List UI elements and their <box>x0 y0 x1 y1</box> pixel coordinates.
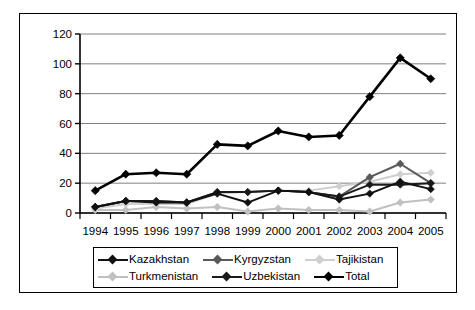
y-tick-label: 60 <box>59 118 72 130</box>
x-tick-label: 2000 <box>265 225 291 237</box>
data-point <box>274 127 282 135</box>
x-tick-label: 1994 <box>82 225 108 237</box>
y-tick-label: 40 <box>59 147 72 159</box>
legend-marker-icon <box>212 271 242 282</box>
data-point <box>305 133 313 141</box>
y-tick-label: 20 <box>59 177 72 189</box>
x-tick-label: 1996 <box>143 225 169 237</box>
y-tick-label: 120 <box>53 28 72 40</box>
data-point <box>397 199 404 206</box>
data-point <box>214 203 221 210</box>
legend-marker-icon <box>314 271 344 282</box>
legend-marker-icon <box>305 254 335 265</box>
x-axis: 1994199519961997199819992000200120022003… <box>80 213 446 237</box>
legend-label: Turkmenistan <box>129 271 198 283</box>
legend-marker-icon <box>98 271 128 282</box>
legend-row: TurkmenistanUzbekistanTotal <box>98 268 393 285</box>
y-tick-label: 0 <box>66 207 72 219</box>
data-point <box>366 208 373 215</box>
series-line <box>95 58 431 191</box>
data-point <box>152 169 160 177</box>
legend-item-tajikistan[interactable]: Tajikistan <box>305 254 383 266</box>
legend-item-kyrgyzstan[interactable]: Kyrgyzstan <box>203 254 291 266</box>
y-tick-label: 100 <box>53 58 72 70</box>
legend-row: KazakhstanKyrgyzstanTajikistan <box>98 251 393 268</box>
legend-marker-icon <box>203 254 233 265</box>
x-tick-label: 2004 <box>387 225 413 237</box>
legend-label: Total <box>345 271 369 283</box>
data-point <box>275 187 282 194</box>
legend-item-kazakhstan[interactable]: Kazakhstan <box>98 254 189 266</box>
data-point <box>275 205 282 212</box>
legend-label: Kyrgyzstan <box>234 254 291 266</box>
legend-marker-icon <box>98 254 128 265</box>
data-point <box>427 185 434 192</box>
data-point <box>244 199 251 206</box>
x-tick-label: 1997 <box>174 225 200 237</box>
data-point <box>366 190 373 197</box>
legend-label: Uzbekistan <box>243 271 300 283</box>
data-series-group <box>91 54 435 215</box>
y-tick-label: 80 <box>59 88 72 100</box>
data-point <box>427 169 434 176</box>
x-tick-label: 2003 <box>357 225 383 237</box>
data-point <box>244 208 251 215</box>
series-uzbekistan <box>92 179 435 210</box>
x-tick-label: 1995 <box>113 225 139 237</box>
x-tick-label: 2002 <box>326 225 352 237</box>
legend-label: Kazakhstan <box>129 254 189 266</box>
x-tick-label: 1998 <box>204 225 230 237</box>
x-tick-label: 1999 <box>235 225 261 237</box>
legend-item-uzbekistan[interactable]: Uzbekistan <box>212 271 300 283</box>
legend-label: Tajikistan <box>336 254 383 266</box>
legend-item-total[interactable]: Total <box>314 271 369 283</box>
data-point <box>397 171 404 178</box>
chart-legend: KazakhstanKyrgyzstanTajikistan Turkmenis… <box>93 247 398 288</box>
legend-item-turkmenistan[interactable]: Turkmenistan <box>98 271 198 283</box>
series-total <box>91 54 435 195</box>
y-axis: 020406080100120 <box>53 28 80 219</box>
x-tick-label: 2001 <box>296 225 322 237</box>
x-tick-label: 2005 <box>418 225 444 237</box>
data-point <box>427 196 434 203</box>
data-point <box>244 142 252 150</box>
data-point <box>244 188 251 195</box>
